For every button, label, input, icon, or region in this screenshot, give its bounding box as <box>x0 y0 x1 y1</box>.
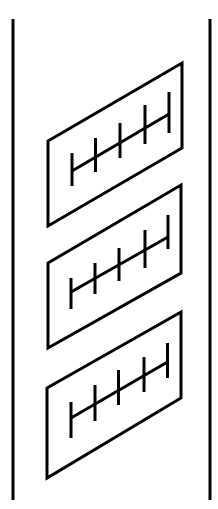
panel-1 <box>48 63 182 226</box>
ruler <box>71 215 168 309</box>
panels-group <box>47 63 182 478</box>
diagram-drawing <box>0 0 218 509</box>
ruler <box>72 92 169 186</box>
diagram-canvas <box>0 0 218 509</box>
ruler <box>71 343 168 438</box>
